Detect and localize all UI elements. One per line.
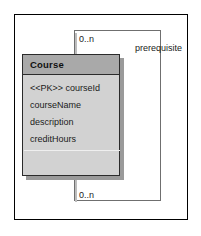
uml-class-diagram: 0..n prerequisite Course <<PK>> courseId… [0, 0, 201, 236]
association-stub-bottom [74, 178, 75, 201]
multiplicity-label-top: 0..n [79, 34, 94, 44]
class-attributes-compartment: <<PK>> courseId courseName description c… [23, 75, 119, 148]
class-operations-compartment [23, 151, 119, 176]
association-line-right [160, 30, 161, 201]
class-attribute: description [30, 114, 119, 131]
class-attribute: <<PK>> courseId [30, 80, 119, 97]
class-name-label: Course [30, 59, 64, 70]
association-line-top [74, 30, 161, 31]
association-stub-bottom-shadow [75, 180, 77, 202]
class-attribute: creditHours [30, 131, 119, 148]
multiplicity-label-bottom: 0..n [79, 190, 94, 200]
association-role-label: prerequisite [135, 43, 182, 53]
class-attribute: courseName [30, 97, 119, 114]
association-line-bottom [74, 200, 161, 201]
class-box-course[interactable]: Course <<PK>> courseId courseName descri… [22, 54, 120, 176]
class-header: Course [23, 55, 119, 75]
